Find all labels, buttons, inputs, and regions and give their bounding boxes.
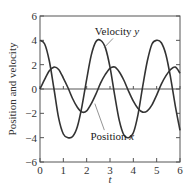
y-axis-label: Position and velocity xyxy=(6,42,18,135)
x-tick-label: 5 xyxy=(154,164,160,176)
y-tick-label: −6 xyxy=(25,156,37,168)
y-tick-label: −4 xyxy=(25,132,37,144)
series-line-position-x xyxy=(40,67,180,113)
annotation-leader-line xyxy=(104,38,113,47)
curve-annotations: Velocity yPosition x xyxy=(90,25,139,142)
x-tick-label: 0 xyxy=(37,164,43,176)
x-tick-label: 1 xyxy=(61,164,67,176)
x-tick-label: 4 xyxy=(131,164,137,176)
annotation-leader-line xyxy=(95,104,105,131)
x-tick-label: 2 xyxy=(84,164,90,176)
y-tick-label: 0 xyxy=(32,83,38,95)
x-tick-label: 6 xyxy=(177,164,183,176)
y-tick-label: 4 xyxy=(32,34,38,46)
y-tick-label: −2 xyxy=(25,107,37,119)
velocity-annotation: Velocity y xyxy=(95,25,139,37)
position-velocity-chart: 0123456 −6−4−20246 Velocity yPosition x … xyxy=(0,0,193,187)
y-tick-label: 6 xyxy=(32,10,38,22)
position-annotation: Position x xyxy=(90,130,134,142)
y-tick-label: 2 xyxy=(32,59,38,71)
